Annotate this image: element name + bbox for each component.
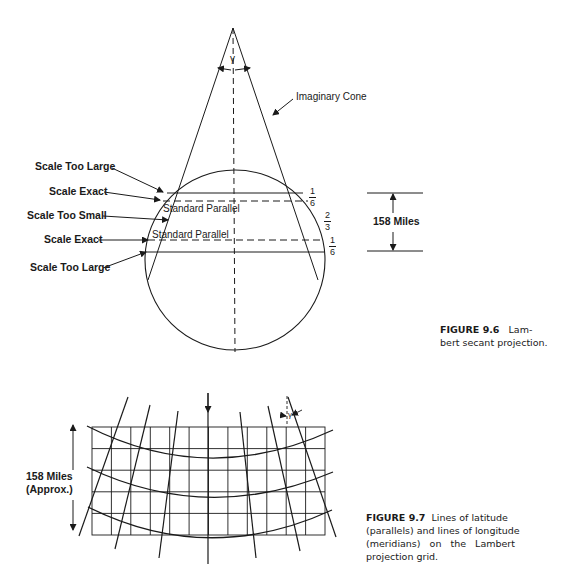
label-standard-parallel-upper: Standard Parallel [163,203,240,214]
fraction-one-sixth-bottom: 16 [329,236,336,257]
leader-imaginary-cone [273,99,293,115]
label-imaginary-cone: Imaginary Cone [296,91,367,102]
gamma-arrow-left [218,68,231,70]
figure-9-7-caption: FIGURE 9.7 Lines of latitude (parallels)… [366,511,562,563]
label-158-miles-approx: 158 Miles (Approx.) [26,470,73,496]
leader-scale-exact-top [104,192,160,200]
cone-right-side [233,28,318,280]
curved-parallels [87,426,333,538]
fraction-one-sixth-top: 16 [309,187,316,208]
leader-scale-too-small [103,216,168,220]
figure-9-6-caption: FIGURE 9.6 Lam- bert secant projection. [440,323,560,349]
caption-number: FIGURE 9.6 [440,324,499,335]
label-scale-exact-top: Scale Exact [49,185,107,197]
label-158-miles: 158 Miles [371,215,422,228]
label-scale-too-large-bottom: Scale Too Large [30,261,110,273]
central-axis [233,28,235,352]
gamma-arrow-left-97 [280,415,286,416]
label-scale-too-large-top: Scale Too Large [35,160,115,172]
label-scale-exact-bottom: Scale Exact [44,233,102,245]
gamma-symbol-97: γ [288,410,292,419]
label-scale-too-small: Scale Too Small [27,209,107,221]
fraction-two-thirds: 23 [324,211,331,232]
leader-scale-too-large-top [112,168,163,192]
gamma-arrow-right [235,68,250,70]
gamma-symbol: γ [230,53,235,64]
cone-left-side [148,28,233,280]
converging-meridians [79,393,336,564]
label-standard-parallel-lower: Standard Parallel [152,229,229,240]
figure-9-6-drawing [98,28,423,352]
lambert-diagrams [0,0,567,584]
figure-9-7-drawing [73,393,336,564]
